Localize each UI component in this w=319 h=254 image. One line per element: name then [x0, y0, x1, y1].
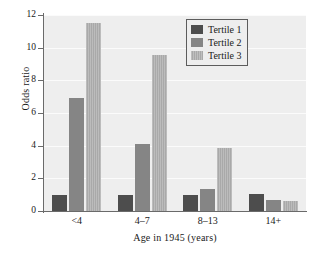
- x-tick-label: 4–7: [112, 215, 172, 226]
- bar: [217, 148, 232, 211]
- y-tick-mark: [38, 15, 43, 16]
- legend-item: Tertile 1: [191, 23, 241, 36]
- plot-area: [44, 15, 306, 211]
- y-tick-mark: [38, 113, 43, 114]
- bar: [266, 200, 281, 211]
- bar: [152, 55, 167, 211]
- x-tick-label: <4: [47, 215, 107, 226]
- y-tick-label: 4: [6, 141, 36, 151]
- bar: [86, 23, 101, 211]
- y-tick-mark: [38, 178, 43, 179]
- y-tick-mark: [38, 146, 43, 147]
- x-axis-line: [43, 211, 307, 212]
- x-tick-label: 8–13: [178, 215, 238, 226]
- x-axis-label: Age in 1945 (years): [40, 232, 310, 243]
- y-tick-label: 10: [6, 43, 36, 53]
- chart-legend: Tertile 1Tertile 2Tertile 3: [186, 19, 248, 66]
- bar: [200, 189, 215, 211]
- y-tick-mark: [38, 48, 43, 49]
- chart-figure: Odds ratio 024681012 <44–78–1314+ Age in…: [0, 0, 319, 254]
- legend-label: Tertile 1: [208, 24, 241, 35]
- legend-swatch-icon: [191, 51, 203, 60]
- gridline: [44, 48, 306, 49]
- gridline: [44, 80, 306, 81]
- y-tick-label: 2: [6, 173, 36, 183]
- legend-swatch-icon: [191, 25, 203, 34]
- y-tick-mark: [38, 211, 43, 212]
- y-tick-label: 0: [6, 206, 36, 216]
- bar: [52, 195, 67, 211]
- y-tick-label: 12: [6, 10, 36, 20]
- bar: [135, 144, 150, 211]
- legend-label: Tertile 2: [208, 37, 241, 48]
- bar: [118, 195, 133, 211]
- gridline: [44, 15, 306, 16]
- y-tick-mark: [38, 80, 43, 81]
- legend-label: Tertile 3: [208, 50, 241, 61]
- bar: [249, 194, 264, 211]
- bar: [183, 195, 198, 211]
- legend-item: Tertile 3: [191, 49, 241, 62]
- y-tick-label: 6: [6, 108, 36, 118]
- legend-swatch-icon: [191, 38, 203, 47]
- y-tick-label: 8: [6, 75, 36, 85]
- bar: [283, 201, 298, 211]
- x-tick-label: 14+: [243, 215, 303, 226]
- bar: [69, 98, 84, 211]
- legend-item: Tertile 2: [191, 36, 241, 49]
